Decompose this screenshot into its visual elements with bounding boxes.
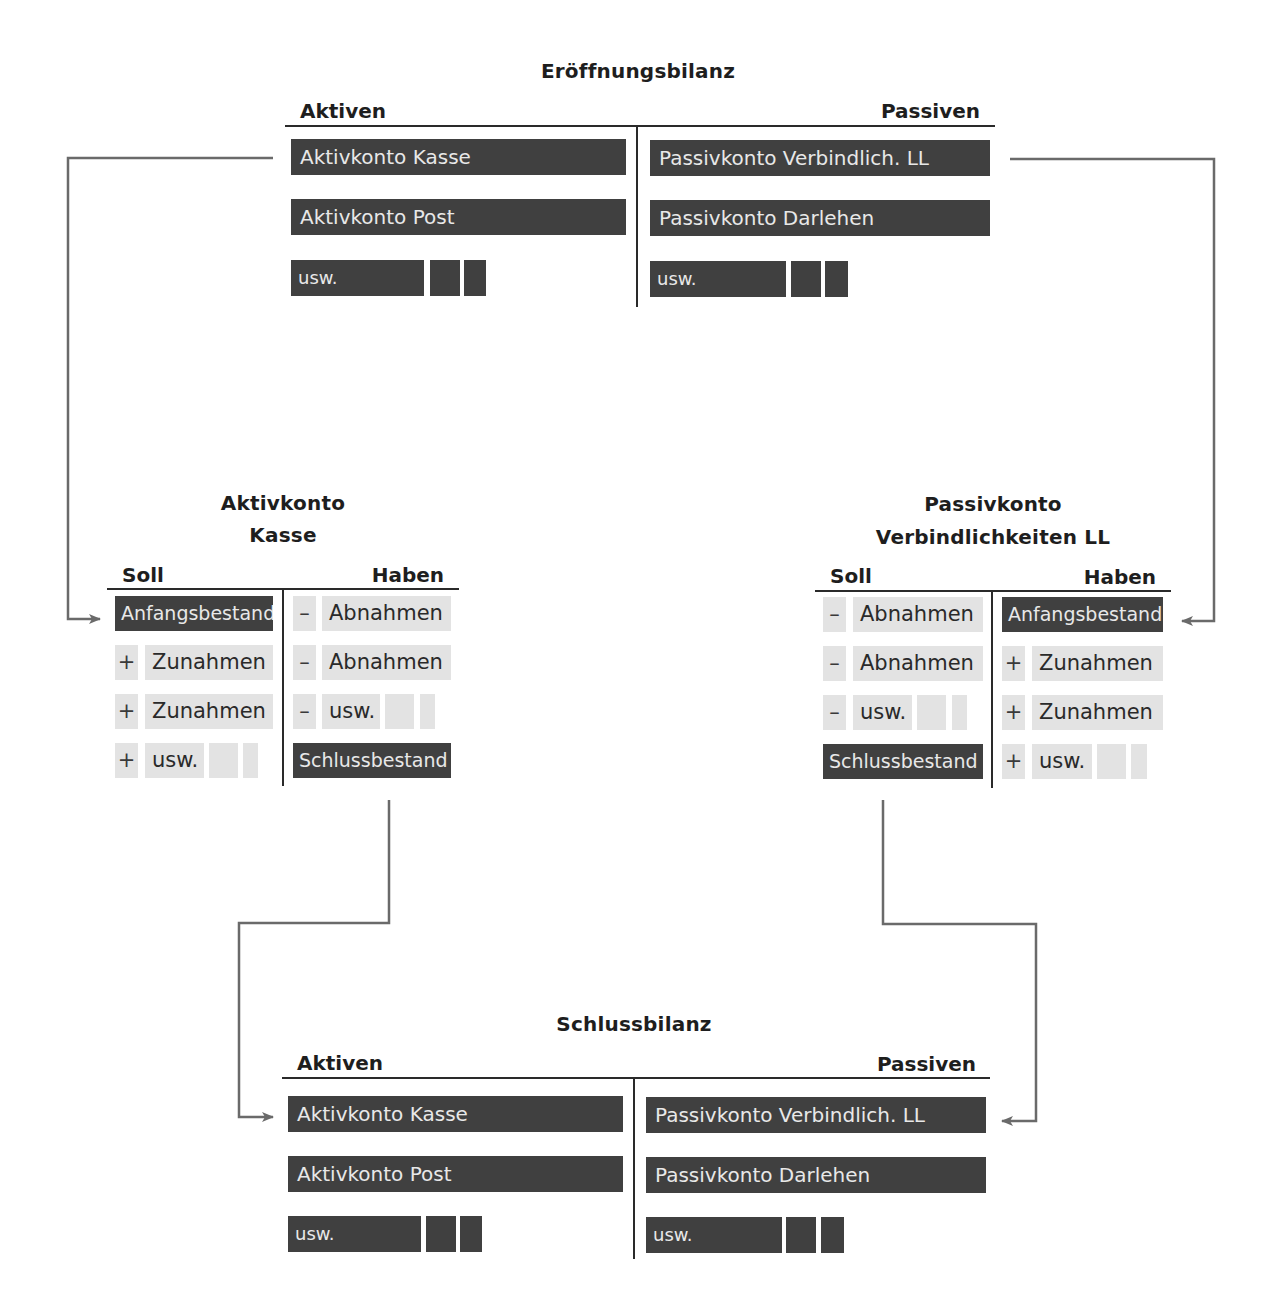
asset-item: Aktivkonto Post (291, 199, 626, 235)
minus-sign: – (293, 596, 316, 631)
more-entry: usw. (1032, 744, 1092, 779)
credit-header: Haben (1084, 565, 1156, 589)
header-rule (815, 590, 1171, 592)
plus-sign: + (1002, 646, 1025, 681)
opening-balance-entry: Anfangsbestand (1002, 597, 1163, 632)
debit-header: Soll (830, 564, 872, 588)
liability-item: Passivkonto Darlehen (646, 1157, 986, 1193)
liability-item: Passivkonto Darlehen (650, 200, 990, 236)
header-rule (285, 125, 995, 127)
more-entry: usw. (853, 695, 912, 730)
center-divider (282, 589, 284, 786)
placeholder-block (385, 694, 414, 729)
opening-balance-title: Eröffnungsbilanz (488, 59, 788, 83)
minus-sign: – (823, 597, 846, 632)
arrow-opening-to-verbindlichkeiten (1010, 159, 1214, 621)
placeholder-block (1097, 744, 1126, 779)
liabilities-header: Passiven (877, 1052, 976, 1076)
placeholder-block (821, 1217, 844, 1253)
header-rule (282, 1077, 990, 1079)
minus-sign: – (293, 694, 316, 729)
asset-item: Aktivkonto Kasse (288, 1096, 623, 1132)
center-divider (633, 1078, 635, 1259)
increase-entry: Zunahmen (1032, 646, 1163, 681)
liability-item-more: usw. (650, 261, 786, 297)
asset-item-more: usw. (288, 1216, 421, 1252)
decrease-entry: Abnahmen (322, 596, 451, 631)
asset-account-title-line2: Kasse (133, 523, 433, 547)
placeholder-block (917, 695, 946, 730)
minus-sign: – (293, 645, 316, 680)
minus-sign: – (823, 695, 846, 730)
asset-item-more: usw. (291, 260, 424, 296)
placeholder-block (786, 1217, 816, 1253)
increase-entry: Zunahmen (145, 694, 273, 729)
more-entry: usw. (322, 694, 380, 729)
center-divider (636, 126, 638, 307)
placeholder-block (460, 1216, 482, 1252)
debit-header: Soll (122, 563, 164, 587)
arrow-opening-to-kasse (68, 158, 273, 619)
placeholder-block (426, 1216, 456, 1252)
placeholder-block (825, 261, 848, 297)
assets-header: Aktiven (300, 99, 386, 123)
plus-sign: + (115, 694, 138, 729)
liability-item: Passivkonto Verbindlich. LL (646, 1097, 986, 1133)
asset-item: Aktivkonto Kasse (291, 139, 626, 175)
placeholder-block (430, 260, 460, 296)
placeholder-block (243, 743, 258, 778)
plus-sign: + (115, 645, 138, 680)
plus-sign: + (1002, 695, 1025, 730)
minus-sign: – (823, 646, 846, 681)
liability-item-more: usw. (646, 1217, 782, 1253)
assets-header: Aktiven (297, 1051, 383, 1075)
liability-item: Passivkonto Verbindlich. LL (650, 140, 990, 176)
asset-item: Aktivkonto Post (288, 1156, 623, 1192)
placeholder-block (952, 695, 967, 730)
decrease-entry: Abnahmen (853, 646, 983, 681)
closing-balance-title: Schlussbilanz (484, 1012, 784, 1036)
liability-account-title-line1: Passivkonto (843, 492, 1143, 516)
asset-account-title-line1: Aktivkonto (133, 491, 433, 515)
placeholder-block (791, 261, 821, 297)
closing-balance-entry: Schlussbestand (823, 744, 983, 779)
credit-header: Haben (372, 563, 444, 587)
closing-balance-entry: Schlussbestand (293, 743, 451, 778)
placeholder-block (209, 743, 238, 778)
center-divider (991, 591, 993, 788)
placeholder-block (464, 260, 486, 296)
opening-balance-entry: Anfangsbestand (115, 596, 273, 631)
more-entry: usw. (145, 743, 204, 778)
placeholder-block (420, 694, 435, 729)
plus-sign: + (115, 743, 138, 778)
placeholder-block (1131, 744, 1147, 779)
decrease-entry: Abnahmen (853, 597, 983, 632)
decrease-entry: Abnahmen (322, 645, 451, 680)
increase-entry: Zunahmen (1032, 695, 1163, 730)
liabilities-header: Passiven (881, 99, 980, 123)
increase-entry: Zunahmen (145, 645, 273, 680)
plus-sign: + (1002, 744, 1025, 779)
liability-account-title-line2: Verbindlichkeiten LL (843, 525, 1143, 549)
